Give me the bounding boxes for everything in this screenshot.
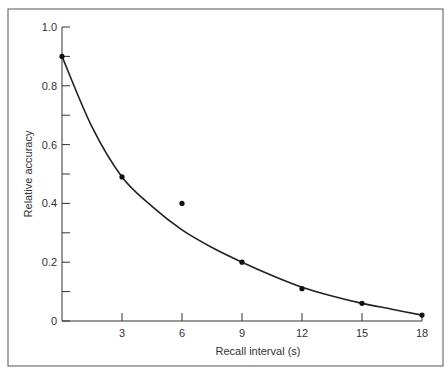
- chart-frame: [8, 9, 443, 366]
- y-tick-label: 1.0: [42, 21, 57, 33]
- y-tick-label: 0: [51, 315, 57, 327]
- x-tick-label: 6: [179, 327, 185, 339]
- curve-path: [62, 56, 422, 315]
- data-point: [239, 260, 244, 265]
- data-point: [419, 313, 424, 318]
- data-point: [59, 54, 64, 59]
- axes: 00.20.40.60.81.0369121518: [42, 21, 428, 339]
- data-point: [179, 201, 184, 206]
- data-point: [299, 286, 304, 291]
- data-point: [359, 301, 364, 306]
- x-tick-label: 3: [119, 327, 125, 339]
- x-tick-label: 12: [296, 327, 308, 339]
- data-points: [59, 54, 424, 318]
- chart: 00.20.40.60.81.0369121518 Recall interva…: [0, 0, 446, 376]
- y-tick-label: 0.6: [42, 139, 57, 151]
- fitted-curve: [62, 56, 422, 315]
- y-tick-label: 0.2: [42, 256, 57, 268]
- x-tick-label: 15: [356, 327, 368, 339]
- y-tick-label: 0.8: [42, 80, 57, 92]
- y-tick-label: 0.4: [42, 197, 57, 209]
- data-point: [119, 174, 124, 179]
- x-tick-label: 9: [239, 327, 245, 339]
- y-axis-title: Relative accuracy: [22, 130, 34, 217]
- x-axis-title: Recall interval (s): [216, 345, 301, 357]
- x-tick-label: 18: [416, 327, 428, 339]
